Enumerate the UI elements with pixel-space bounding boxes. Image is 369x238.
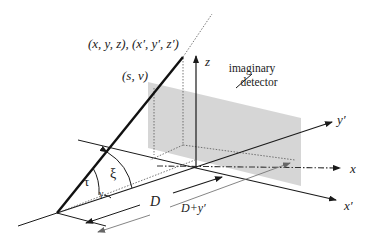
- diagram-canvas: (x, y, z), (x′, y′, z′) (s, v) z imagina…: [0, 0, 369, 238]
- distance-D-label: D: [149, 194, 160, 209]
- z-axis-label: z: [204, 54, 210, 69]
- detector-label-line2: detector: [240, 76, 277, 88]
- gamma-label: γ: [98, 188, 104, 199]
- detector-coordinates-label: (s, v): [122, 68, 148, 83]
- distance-D-plus-y-arrow-left: [98, 215, 150, 232]
- ray-extension: [183, 14, 212, 57]
- y-prime-axis-label: y′: [335, 112, 346, 127]
- point-coordinates-label: (x, y, z), (x′, y′, z′): [88, 36, 179, 51]
- detector-label-line1: imaginary: [229, 62, 276, 75]
- x-prime-axis-label: x′: [343, 198, 353, 213]
- baseline-left: [18, 213, 57, 226]
- distance-D-plus-y-label: D+y′: [180, 201, 206, 215]
- source-to-x-prime: [57, 213, 106, 226]
- xi-label: ξ: [110, 166, 116, 181]
- imaginary-detector-plane: [148, 82, 301, 186]
- x-axis-label: x: [349, 161, 356, 176]
- distance-D-arrow: [86, 205, 140, 223]
- tau-label: τ: [84, 174, 89, 189]
